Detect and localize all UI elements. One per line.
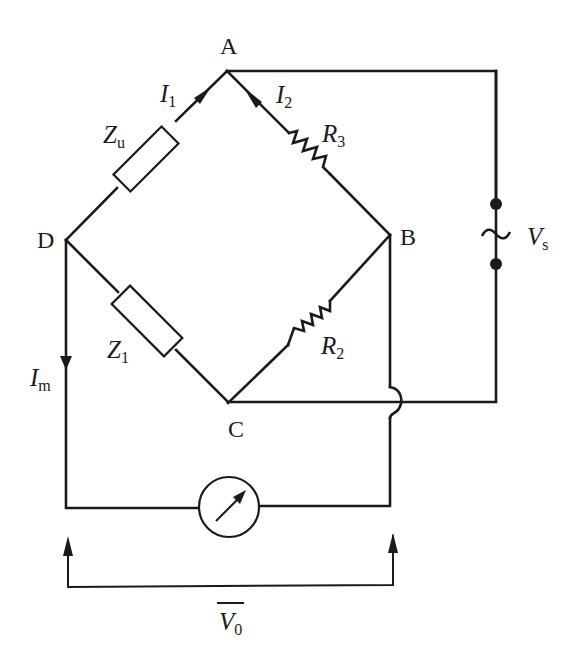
label-zu: Zu bbox=[103, 121, 125, 151]
output-bracket bbox=[68, 535, 393, 587]
wire-d-meter bbox=[66, 240, 199, 508]
wire-z1-c bbox=[176, 350, 228, 402]
node-label-b: B bbox=[400, 224, 416, 250]
label-i1: I1 bbox=[159, 80, 176, 110]
branch-a-d bbox=[66, 71, 227, 240]
source-loop bbox=[227, 71, 510, 402]
wire-b-r2 bbox=[330, 235, 390, 301]
wire-r3-b bbox=[330, 174, 390, 235]
label-r3: R3 bbox=[321, 120, 345, 150]
label-i2: I2 bbox=[275, 81, 292, 111]
branch-b-c bbox=[228, 235, 390, 403]
output-voltage-indicator bbox=[63, 533, 398, 603]
label-vs: Vs bbox=[527, 223, 549, 253]
output-arrow-left-icon bbox=[63, 536, 73, 556]
node-label-a: A bbox=[220, 33, 238, 59]
meter-gauge-icon bbox=[199, 477, 259, 537]
node-label-d: D bbox=[37, 227, 54, 253]
label-z1: Z1 bbox=[107, 336, 129, 366]
node-label-c: C bbox=[228, 416, 244, 442]
label-im: Im bbox=[29, 364, 51, 394]
impedance-z1 bbox=[112, 286, 183, 357]
wire-zu-d bbox=[66, 188, 117, 240]
label-v0: V0 bbox=[219, 608, 242, 638]
wire-r2-c bbox=[228, 345, 288, 403]
output-arrow-right-icon bbox=[388, 533, 398, 553]
branch-d-c bbox=[66, 240, 228, 402]
label-r2: R2 bbox=[320, 332, 344, 362]
wire-d-z1 bbox=[66, 240, 118, 292]
wire-b-meter bbox=[259, 418, 390, 506]
current-arrow-im-icon bbox=[60, 356, 72, 370]
wire-a-source bbox=[227, 71, 496, 262]
branch-a-b bbox=[227, 71, 390, 235]
bridge-circuit-diagram: A B C D Zu Z1 R3 R2 Vs I1 I2 Im V0 bbox=[0, 0, 570, 663]
wire-source-c bbox=[228, 264, 496, 402]
